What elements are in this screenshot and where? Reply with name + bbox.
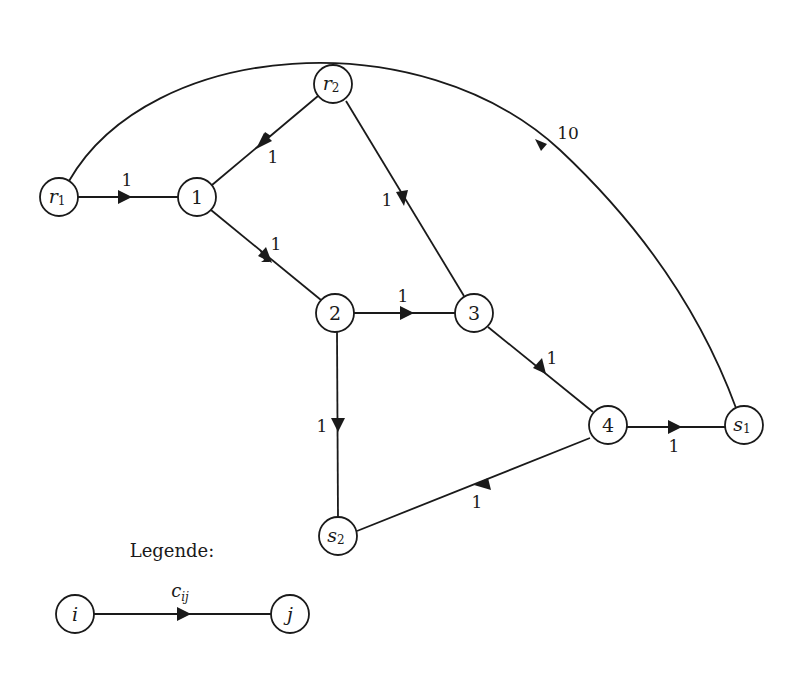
edge-weight-r1-s1: 10 xyxy=(557,123,579,143)
edge-weight-3-4: 1 xyxy=(547,348,558,368)
node-4: 4 xyxy=(589,406,627,444)
node-r2: r2 xyxy=(314,65,352,103)
arrow-icon xyxy=(535,139,547,151)
edge-4-s1: 1 xyxy=(627,420,725,456)
edge-weight-2-3: 1 xyxy=(398,286,409,306)
edge-r2-1: 1 xyxy=(212,96,318,185)
node-s1-label: s xyxy=(733,413,743,435)
node-r1: r1 xyxy=(40,178,78,216)
arrow-icon xyxy=(118,190,132,204)
legend: Legende: cij i j xyxy=(56,540,309,633)
edge-r2-3: 1 xyxy=(346,101,464,296)
edge-weight-4-s1: 1 xyxy=(669,436,680,456)
legend-title: Legende: xyxy=(130,540,215,561)
edge-r1-1: 1 xyxy=(78,170,178,204)
edge-r1-s1-curved: 10 xyxy=(69,63,736,408)
arrow-icon xyxy=(177,607,191,621)
node-1-label: 1 xyxy=(191,186,203,208)
legend-node-i-label: i xyxy=(72,603,78,625)
edge-1-2: 1 xyxy=(211,210,321,300)
arrow-icon xyxy=(474,478,491,490)
legend-edge-label: cij xyxy=(171,580,189,604)
arrow-icon xyxy=(400,306,414,320)
edge-3-4: 1 xyxy=(488,327,593,412)
arrow-icon xyxy=(668,420,682,434)
node-s1: s1 xyxy=(725,406,763,444)
edge-4-s2: 1 xyxy=(357,438,590,531)
node-3-label: 3 xyxy=(468,302,480,324)
edge-2-3: 1 xyxy=(354,286,455,320)
arrow-icon xyxy=(396,190,408,206)
edge-weight-r2-3: 1 xyxy=(382,190,393,210)
arrow-icon xyxy=(533,358,546,374)
node-1: 1 xyxy=(178,178,216,216)
edge-weight-4-s2: 1 xyxy=(472,492,483,512)
node-2: 2 xyxy=(316,294,354,332)
legend-node-j: j xyxy=(271,595,309,633)
node-3: 3 xyxy=(455,294,493,332)
node-2-label: 2 xyxy=(329,302,341,324)
edge-weight-1-2: 1 xyxy=(271,234,282,254)
network-graph: 1 1 1 1 1 1 1 1 1 xyxy=(0,0,804,676)
node-4-label: 4 xyxy=(602,414,614,436)
edge-weight-2-s2: 1 xyxy=(317,416,328,436)
edge-weight-r1-1: 1 xyxy=(122,170,133,190)
edge-weight-r2-1: 1 xyxy=(268,147,279,167)
edge-2-s2: 1 xyxy=(317,332,345,517)
node-s2: s2 xyxy=(319,517,357,555)
arrow-icon xyxy=(331,418,345,432)
legend-node-i: i xyxy=(56,595,94,633)
node-s2-label: s xyxy=(327,524,337,546)
